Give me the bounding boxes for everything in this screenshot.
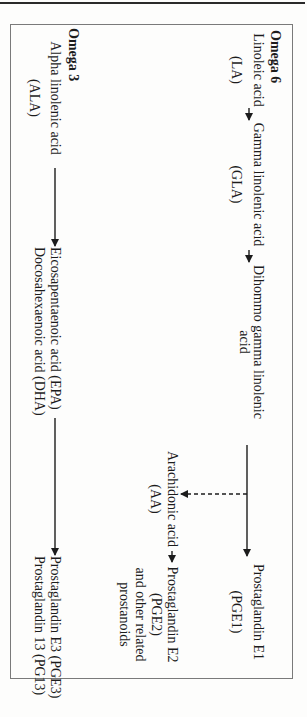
- rotated-diagram: Omega 6 Linoleic acid (LA) Gamma linolen…: [0, 0, 307, 717]
- arrows-layer: [0, 0, 307, 717]
